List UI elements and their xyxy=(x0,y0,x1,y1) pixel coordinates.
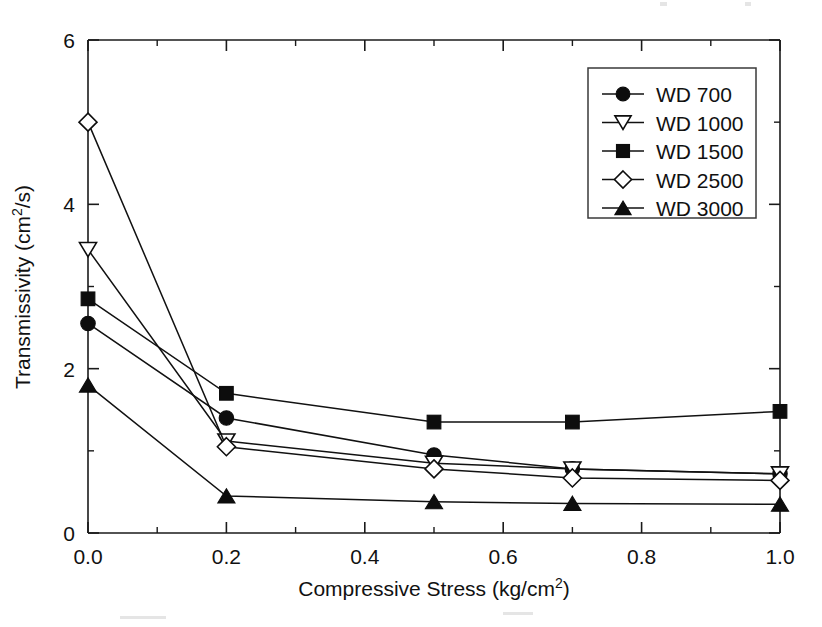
data-point-circle-filled xyxy=(81,316,95,330)
transmissivity-line-chart: 0.00.20.40.60.81.00246 Compressive Stres… xyxy=(0,0,822,627)
series-wd-1500 xyxy=(81,292,787,429)
y-axis-title-base: Transmissivity (cm xyxy=(11,216,34,389)
scan-artifact xyxy=(745,2,751,6)
figure-container: 0.00.20.40.60.81.00246 Compressive Stres… xyxy=(0,0,822,627)
legend-label: WD 1000 xyxy=(656,112,744,135)
scan-artifact xyxy=(120,616,166,619)
chart-legend: WD 700WD 1000WD 1500WD 2500WD 3000 xyxy=(588,68,756,220)
data-point-square-filled xyxy=(617,145,630,158)
series-line xyxy=(88,250,780,474)
svg-text:Transmissivity (cm2/s): Transmissivity (cm2/s) xyxy=(9,185,34,389)
data-point-triangle-up-filled xyxy=(80,378,97,392)
legend-item-wd-2500[interactable]: WD 2500 xyxy=(602,169,744,192)
data-point-circle-filled xyxy=(219,411,233,425)
x-tick-label: 0.2 xyxy=(212,545,241,568)
y-axis-title-superscript: 2 xyxy=(9,208,25,216)
series-line xyxy=(88,299,780,422)
x-tick-label: 0.8 xyxy=(627,545,656,568)
data-point-square-filled xyxy=(427,415,441,429)
legend-label: WD 1500 xyxy=(656,140,744,163)
data-point-diamond-open xyxy=(217,438,235,456)
x-axis-title: Compressive Stress (kg/cm2) xyxy=(298,575,570,600)
x-tick-label: 0.6 xyxy=(489,545,518,568)
x-axis-title-tail: ) xyxy=(563,577,570,600)
y-axis-title-tail: /s) xyxy=(11,185,34,208)
data-point-square-filled xyxy=(220,387,234,401)
data-point-square-filled xyxy=(81,292,95,306)
y-tick-label: 2 xyxy=(63,358,75,381)
series-line xyxy=(88,385,780,504)
series-wd-1000 xyxy=(80,243,789,482)
legend-label: WD 3000 xyxy=(656,197,744,220)
x-tick-label: 1.0 xyxy=(765,545,794,568)
data-point-triangle-down-open xyxy=(80,243,97,257)
x-tick-label: 0.4 xyxy=(350,545,380,568)
scan-artifact xyxy=(660,2,667,6)
y-tick-label: 0 xyxy=(63,522,75,545)
data-point-square-filled xyxy=(773,405,787,419)
legend-label: WD 2500 xyxy=(656,169,744,192)
y-tick-label: 4 xyxy=(63,193,75,216)
data-point-circle-filled xyxy=(616,87,630,101)
svg-text:Compressive Stress (kg/cm2): Compressive Stress (kg/cm2) xyxy=(298,575,570,600)
y-axis-title: Transmissivity (cm2/s) xyxy=(9,185,34,389)
scan-artifact xyxy=(503,612,533,615)
x-axis-title-superscript: 2 xyxy=(555,575,563,591)
data-point-diamond-open xyxy=(79,113,97,131)
x-axis-title-base: Compressive Stress (kg/cm xyxy=(298,577,555,600)
data-point-square-filled xyxy=(566,415,580,429)
y-tick-label: 6 xyxy=(63,29,75,52)
x-tick-label: 0.0 xyxy=(73,545,102,568)
series-wd-3000 xyxy=(80,378,789,511)
legend-label: WD 700 xyxy=(656,83,732,106)
